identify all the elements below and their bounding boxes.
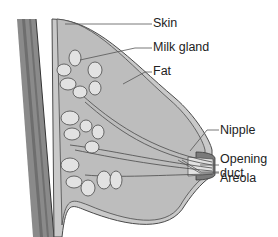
label-areola: Areola: [220, 172, 256, 185]
label-milk-gland: Milk gland: [153, 41, 209, 54]
label-nipple: Nipple: [220, 124, 255, 137]
label-opening-duct-line1: Opening: [220, 153, 267, 166]
breast-anatomy-diagram: [0, 0, 278, 237]
label-fat: Fat: [153, 65, 171, 78]
chest-wall: [17, 19, 54, 237]
label-skin: Skin: [153, 17, 177, 30]
